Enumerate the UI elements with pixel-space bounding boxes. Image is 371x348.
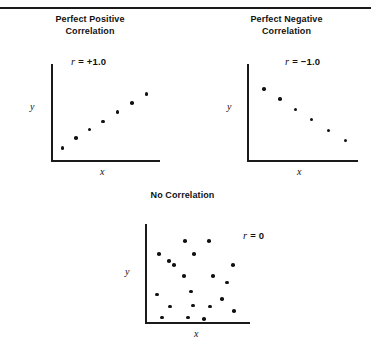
data-point — [88, 128, 92, 132]
data-point — [327, 129, 331, 133]
data-point — [208, 305, 212, 309]
data-point — [172, 263, 176, 267]
data-point — [116, 110, 120, 114]
data-point — [189, 290, 193, 294]
data-point — [167, 259, 171, 263]
figure-top-rule — [0, 7, 371, 9]
correlation-figure: Perfect Positive Correlation r = +1.0 y … — [0, 0, 371, 348]
data-point — [130, 101, 134, 105]
panel-no-correlation: No Correlation r = 0 y x — [110, 190, 290, 340]
data-point — [192, 252, 196, 256]
data-point — [231, 263, 235, 267]
plot-area-perfect-positive — [20, 14, 180, 184]
data-point — [232, 309, 236, 313]
data-point — [168, 305, 172, 309]
data-point — [145, 92, 149, 96]
data-point — [191, 304, 195, 308]
data-point — [61, 146, 65, 150]
data-point — [74, 136, 78, 140]
panel-perfect-negative: Perfect Negative Correlation r = −1.0 y … — [215, 14, 371, 184]
data-point — [262, 87, 266, 91]
data-point — [294, 108, 298, 112]
data-point — [157, 252, 161, 256]
data-point — [202, 317, 206, 321]
data-point — [101, 120, 105, 124]
data-point — [183, 239, 187, 243]
data-point — [278, 97, 282, 101]
data-point — [207, 239, 211, 243]
plot-area-perfect-negative — [215, 14, 371, 184]
plot-area-no-correlation — [110, 190, 290, 340]
data-point — [225, 281, 229, 285]
data-point — [310, 118, 314, 122]
panel-perfect-positive: Perfect Positive Correlation r = +1.0 y … — [20, 14, 180, 184]
data-point — [344, 139, 348, 143]
data-point — [155, 293, 159, 297]
data-point — [211, 274, 215, 278]
data-point — [160, 316, 164, 320]
data-point — [182, 274, 186, 278]
data-point — [186, 316, 190, 320]
data-point — [220, 297, 224, 301]
